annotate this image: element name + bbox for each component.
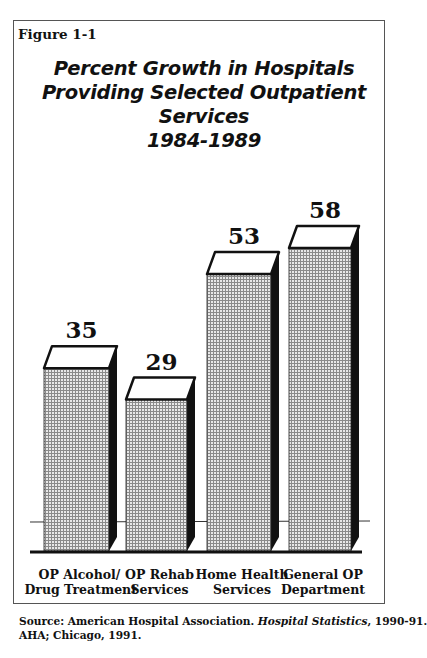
bar-top-face bbox=[207, 252, 279, 274]
source-publication: Hospital Statistics bbox=[258, 615, 368, 627]
source-line-2: AHA; Chicago, 1991. bbox=[19, 629, 142, 641]
bar-side bbox=[351, 226, 359, 551]
bar-value-label: 53 bbox=[228, 222, 260, 249]
bar-top-face bbox=[126, 378, 195, 400]
bar: 53 bbox=[207, 222, 279, 551]
bar: 29 bbox=[126, 348, 195, 552]
bar-value-label: 58 bbox=[309, 196, 341, 223]
category-label: General OPDepartment bbox=[268, 567, 378, 597]
category-label-line: Department bbox=[268, 582, 378, 597]
bar-side bbox=[109, 346, 117, 551]
bar: 58 bbox=[289, 196, 359, 551]
bar: 35 bbox=[44, 316, 117, 551]
bars-group: 35295358 bbox=[44, 196, 359, 551]
bar-side bbox=[271, 252, 279, 551]
bar-value-label: 35 bbox=[65, 316, 97, 343]
bar-front bbox=[44, 368, 109, 551]
source-suffix: , 1990-91. bbox=[367, 615, 427, 627]
bar-top-face bbox=[289, 226, 359, 248]
bar-front bbox=[289, 248, 351, 551]
bar-side bbox=[187, 378, 195, 552]
bar-front bbox=[207, 274, 271, 551]
source-prefix: Source: American Hospital Association. bbox=[19, 615, 258, 627]
bar-front bbox=[126, 400, 187, 552]
source-note: Source: American Hospital Association. H… bbox=[19, 614, 389, 642]
category-label-line: General OP bbox=[268, 567, 378, 582]
bar-top-face bbox=[44, 346, 117, 368]
bar-value-label: 29 bbox=[145, 348, 177, 375]
